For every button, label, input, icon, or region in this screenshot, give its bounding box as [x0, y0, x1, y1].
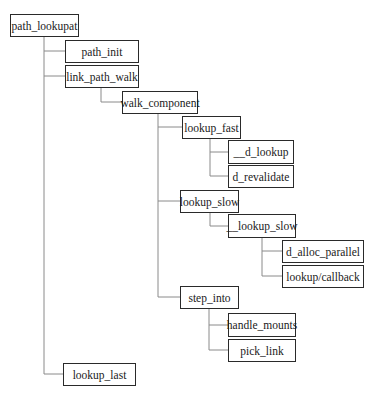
node-d-lookup: __d_lookup — [228, 140, 294, 164]
node-lookup-fast: lookup_fast — [182, 116, 241, 139]
node-lookup-slow-inner: __lookup_slow — [228, 214, 296, 238]
node-pick-link: pick_link — [228, 339, 296, 362]
node-lookup-slow: lookup_slow — [180, 190, 239, 213]
node-lookup-last: lookup_last — [63, 363, 136, 386]
node-step-into: step_into — [180, 286, 239, 309]
node-d-revalidate: d_revalidate — [228, 165, 294, 188]
node-path-lookupat: path_lookupat — [10, 14, 79, 37]
node-link-path-walk: link_path_walk — [65, 65, 139, 88]
node-d-alloc-parallel: d_alloc_parallel — [282, 240, 364, 263]
node-path-init: path_init — [65, 40, 139, 63]
node-walk-component: walk_component — [122, 91, 198, 114]
node-handle-mounts: handle_mounts — [228, 313, 296, 337]
node-lookup-callback: lookup/callback — [282, 265, 364, 288]
